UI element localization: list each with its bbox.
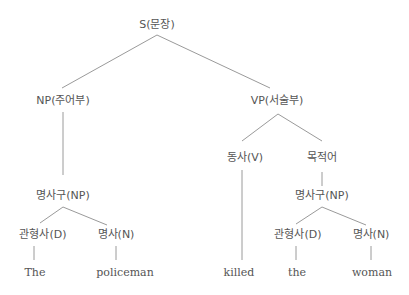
- leaf-the-upper: The: [25, 267, 46, 278]
- node-noun-left: 명사(N): [98, 229, 135, 240]
- tree-edges: [0, 0, 409, 295]
- edge-vp-verb: [242, 114, 278, 141]
- leaf-policeman: policeman: [96, 267, 153, 278]
- node-noun-right: 명사(N): [353, 229, 390, 240]
- edge-s-vp: [157, 35, 270, 88]
- node-np-subject: NP(주어부): [36, 95, 89, 106]
- node-det-left: 관형사(D): [19, 229, 66, 240]
- edge-npphrase2-noun: [322, 207, 366, 225]
- leaf-woman: woman: [352, 267, 392, 278]
- edge-npphrase-noun: [63, 207, 107, 225]
- edge-npphrase2-det: [296, 207, 322, 224]
- node-det-right: 관형사(D): [274, 229, 321, 240]
- node-object: 목적어: [307, 152, 337, 163]
- node-vp-predicate: VP(서술부): [251, 95, 304, 106]
- leaf-killed: killed: [224, 267, 255, 278]
- edge-s-np: [62, 35, 157, 88]
- node-s: S(문장): [139, 19, 175, 30]
- node-verb: 동사(V): [227, 152, 263, 163]
- node-np-phrase-right: 명사구(NP): [295, 190, 348, 201]
- edge-vp-object: [278, 114, 322, 141]
- node-np-phrase-left: 명사구(NP): [36, 190, 89, 201]
- edge-npphrase-det: [40, 207, 63, 223]
- leaf-the-lower: the: [288, 267, 306, 278]
